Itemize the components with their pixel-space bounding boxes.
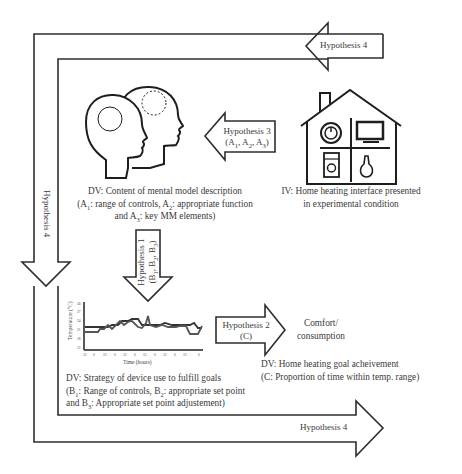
temperature-chart: 30 27 24 21 18 15 126126126136126126 Tem… — [67, 301, 203, 366]
thermostat-icon — [321, 123, 341, 143]
comfort-line2: (C: Proportion of time within temp. rang… — [261, 371, 419, 384]
svg-text:6: 6 — [154, 353, 156, 357]
svg-text:24: 24 — [77, 319, 81, 323]
mental-model-line3: and A3: key MM elements) — [60, 210, 270, 223]
comfort-title-line2: consumption — [286, 330, 356, 343]
svg-text:6: 6 — [93, 353, 95, 357]
svg-text:6: 6 — [198, 353, 200, 357]
chart-y-label: Temperature (°C) — [67, 301, 74, 340]
chart-x-label: Time (hours) — [123, 359, 152, 366]
hypothesis-4-top-label: Hypothesis 4 — [320, 40, 367, 51]
svg-text:12: 12 — [83, 353, 87, 357]
interface-line2: in experimental condition — [268, 198, 434, 211]
interface-line1: IV: Home heating interface presented — [268, 185, 434, 198]
hypothesis-3-vars: (A1, A2, A3) — [218, 137, 276, 148]
light-bulb-icon — [361, 156, 373, 177]
hypothesis-2-label: Hypothesis 2 (C) — [216, 320, 276, 341]
mental-model-line1: DV: Content of mental model description — [60, 185, 270, 198]
hypothesis-2-title: Hypothesis 2 — [216, 320, 276, 331]
svg-text:18: 18 — [77, 337, 81, 341]
svg-text:21: 21 — [77, 328, 81, 332]
hypothesis-4-left-label: Hypothesis 4 — [42, 190, 53, 237]
strategy-line2: (B1: Range of controls, B2: appropriate … — [66, 385, 245, 398]
mental-model-line2: (A1: range of controls, A2: appropriate … — [60, 198, 270, 211]
mental-model-caption: DV: Content of mental model description … — [60, 185, 270, 223]
hypothesis-3-title: Hypothesis 3 — [218, 126, 276, 137]
svg-text:13: 13 — [143, 353, 147, 357]
hypothesis-1-vars: (B1, B2, B3) — [147, 232, 158, 292]
comfort-title-line1: Comfort/ — [286, 317, 356, 330]
comfort-consumption-title: Comfort/ consumption — [286, 317, 356, 342]
interface-caption: IV: Home heating interface presented in … — [268, 185, 434, 210]
svg-text:30: 30 — [77, 302, 81, 306]
hypothesis-4-bottom-label: Hypothesis 4 — [300, 422, 347, 433]
washing-machine-icon — [324, 153, 339, 177]
house-devices-icon — [301, 90, 401, 184]
svg-text:12: 12 — [183, 353, 187, 357]
svg-text:12: 12 — [163, 353, 167, 357]
svg-text:27: 27 — [77, 310, 81, 314]
svg-text:12: 12 — [123, 353, 127, 357]
comfort-caption: DV: Home heating goal acheivement (C: Pr… — [261, 358, 419, 383]
strategy-line3: and B3: Appropriate set point adjustemen… — [66, 397, 245, 410]
svg-text:6: 6 — [134, 353, 136, 357]
hypothesis-3-label: Hypothesis 3 (A1, A2, A3) — [218, 126, 276, 147]
svg-text:6: 6 — [114, 353, 116, 357]
monitor-icon — [357, 122, 383, 142]
hypothesis-1-label: Hypothesis 1 (B1, B2, B3) — [136, 232, 157, 292]
comfort-line1: DV: Home heating goal acheivement — [261, 358, 419, 371]
svg-text:12: 12 — [103, 353, 107, 357]
hypothesis-1-title: Hypothesis 1 — [136, 232, 147, 292]
svg-text:6: 6 — [174, 353, 176, 357]
hypothesis-2-vars: (C) — [216, 331, 276, 342]
two-heads-icon — [86, 87, 183, 178]
svg-text:15: 15 — [77, 346, 81, 350]
strategy-line1: DV: Strategy of device use to fulfill go… — [66, 372, 245, 385]
strategy-caption: DV: Strategy of device use to fulfill go… — [66, 372, 245, 410]
